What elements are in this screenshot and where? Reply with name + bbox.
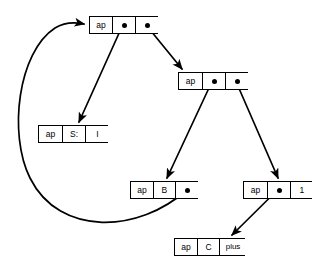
b-cell[interactable]: apB (130, 181, 198, 199)
b-cell-value-cell-1[interactable]: B (153, 182, 175, 198)
second-cell-pointer-cell-2[interactable] (225, 73, 249, 89)
s-cell-value-cell-1[interactable]: S: (62, 126, 85, 142)
root-cell[interactable]: ap (89, 16, 158, 34)
s-cell[interactable]: apS:I (38, 125, 108, 143)
root-cell-value-cell-0[interactable]: ap (90, 17, 112, 33)
c-plus-cell-value-cell-0[interactable]: ap (175, 239, 197, 255)
arrow-second-cdr-to-one-cell (236, 82, 278, 179)
one-cell-value-cell-2[interactable]: 1 (290, 182, 313, 198)
one-cell-pointer-cell-1[interactable] (267, 182, 290, 198)
c-plus-cell-value-cell-1[interactable]: C (197, 239, 219, 255)
s-cell-value-cell-0[interactable]: ap (39, 126, 62, 142)
second-cell[interactable]: ap (178, 72, 248, 90)
one-cell-value-cell-0[interactable]: ap (244, 182, 267, 198)
diagram-canvas: apapapS:IapBap1apCplus (0, 0, 328, 271)
c-plus-cell[interactable]: apCplus (174, 238, 245, 256)
second-cell-value-cell-0[interactable]: ap (179, 73, 202, 89)
arrow-root-car-to-s-cell (79, 26, 123, 123)
root-cell-pointer-cell-2[interactable] (135, 17, 159, 33)
arrow-second-car-to-b-cell (167, 82, 212, 179)
one-cell[interactable]: ap1 (243, 181, 312, 199)
second-cell-pointer-cell-1[interactable] (202, 73, 225, 89)
b-cell-value-cell-0[interactable]: ap (131, 182, 153, 198)
c-plus-cell-value-cell-2[interactable]: plus (219, 239, 246, 255)
s-cell-value-cell-2[interactable]: I (85, 126, 109, 142)
b-cell-pointer-cell-2[interactable] (175, 182, 199, 198)
root-cell-pointer-cell-1[interactable] (112, 17, 135, 33)
